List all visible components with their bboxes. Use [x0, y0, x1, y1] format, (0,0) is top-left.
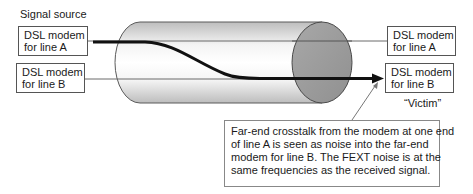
modem-right-line-b: DSL modem for line B [385, 63, 454, 93]
modem-right-a-line1: DSL modem [393, 29, 455, 41]
modem-left-b-line2: for line B [22, 78, 84, 90]
modem-left-a-line2: for line A [24, 41, 87, 53]
callout-line-4: same frequencies as the received signal. [231, 164, 439, 177]
modem-left-a-line1: DSL modem [24, 29, 87, 41]
callout-line-1: Far-end crosstalk from the modem at one … [231, 125, 439, 138]
modem-right-b-line2: for line B [391, 78, 453, 90]
modem-right-line-a: DSL modem for line A [387, 26, 456, 56]
modem-left-line-b: DSL modem for line B [16, 63, 85, 93]
callout-line-3: modem for line B. The FEXT noise is at t… [231, 151, 439, 164]
cable-end [292, 22, 352, 103]
signal-source-label: Signal source [20, 8, 87, 21]
callout-line-2: of line A is seen as noise into the far-… [231, 138, 439, 151]
victim-label: “Victim” [404, 97, 441, 110]
callout-leader [352, 86, 375, 120]
modem-right-a-line2: for line A [393, 41, 455, 53]
fext-callout: Far-end crosstalk from the modem at one … [224, 120, 440, 187]
modem-left-b-line1: DSL modem [22, 66, 84, 78]
modem-left-line-a: DSL modem for line A [18, 26, 88, 56]
modem-right-b-line1: DSL modem [391, 66, 453, 78]
cable-body [115, 22, 322, 103]
